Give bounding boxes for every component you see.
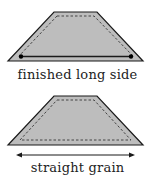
caption-straight-grain: straight grain bbox=[0, 160, 155, 175]
seam-point-right bbox=[129, 54, 133, 58]
straight-grain-arrow-icon bbox=[16, 153, 135, 158]
trapezoid-diagrams bbox=[0, 0, 155, 177]
caption-finished-long-side: finished long side bbox=[0, 67, 155, 82]
trapezoid-straight-grain bbox=[8, 96, 143, 145]
trapezoid-finished-long-side bbox=[8, 12, 143, 61]
seam-point-left bbox=[19, 54, 23, 58]
